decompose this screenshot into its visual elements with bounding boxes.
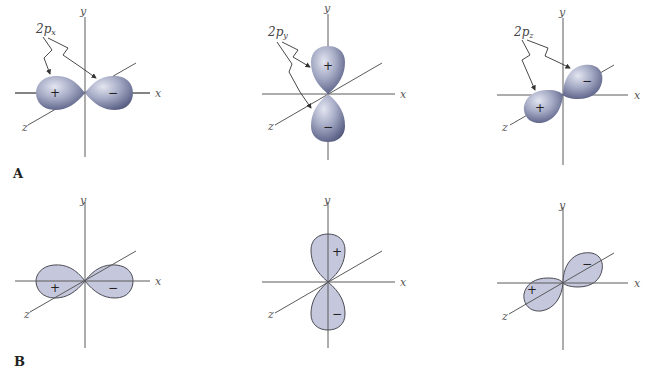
x-axis-label: x — [634, 89, 641, 102]
x-axis-label: x — [155, 275, 162, 288]
y-axis-label: y — [323, 2, 331, 15]
pointer-arrow — [527, 40, 570, 68]
lobe-positive — [36, 76, 85, 110]
pointer-arrow — [282, 42, 310, 67]
row-a: + − y x z 2px A + − y x z 2py — [12, 2, 641, 181]
y-axis-label: y — [79, 194, 87, 207]
panel-b-py: + − y x z — [262, 194, 407, 348]
pointer-arrow — [48, 38, 96, 78]
z-axis-label: z — [267, 120, 274, 133]
z-axis-label: z — [267, 308, 274, 321]
z-axis-label: z — [21, 121, 28, 134]
sign-positive: + — [332, 245, 342, 259]
y-axis-label: y — [558, 199, 566, 212]
orbital-label: 2px — [35, 22, 56, 37]
sign-negative: − — [108, 281, 118, 295]
z-axis-label: z — [23, 308, 30, 321]
sign-positive: + — [50, 86, 60, 100]
orbital-label: 2py — [267, 25, 288, 40]
z-axis-label: z — [501, 310, 508, 323]
sign-positive: + — [323, 59, 333, 73]
pointer-arrow — [522, 40, 535, 90]
y-axis-label: y — [323, 194, 331, 207]
z-axis-label: z — [501, 121, 508, 134]
row-label-a: A — [12, 166, 24, 181]
sign-negative: − — [323, 120, 333, 134]
orbital-label: 2pz — [513, 25, 534, 40]
panel-a-py: + − y x z 2py — [262, 2, 407, 160]
row-b: + − y x z B + − y x z + — [14, 194, 641, 369]
x-axis-label: x — [400, 276, 407, 289]
sign-negative: − — [332, 307, 342, 321]
pointer-arrow — [277, 42, 311, 108]
panel-a-pz: + − y x z 2pz — [497, 6, 641, 165]
sign-positive: + — [535, 101, 545, 115]
panel-b-pz: + − y x z — [497, 199, 641, 350]
sign-positive: + — [50, 281, 60, 295]
sign-negative: − — [582, 74, 592, 88]
panel-a-px: + − y x z 2px A — [12, 5, 162, 181]
x-axis-label: x — [400, 88, 407, 101]
panel-b-px: + − y x z B — [14, 194, 162, 369]
x-axis-label: x — [155, 87, 162, 100]
y-axis-label: y — [558, 6, 566, 19]
x-axis-label: x — [634, 277, 641, 290]
pointer-arrow — [43, 37, 52, 74]
row-label-b: B — [14, 354, 25, 369]
sign-negative: − — [582, 257, 592, 271]
y-axis-label: y — [79, 5, 87, 18]
sign-negative: − — [108, 86, 118, 100]
p-orbitals-figure: + − y x z 2px A + − y x z 2py — [0, 0, 650, 379]
sign-positive: + — [527, 283, 537, 297]
